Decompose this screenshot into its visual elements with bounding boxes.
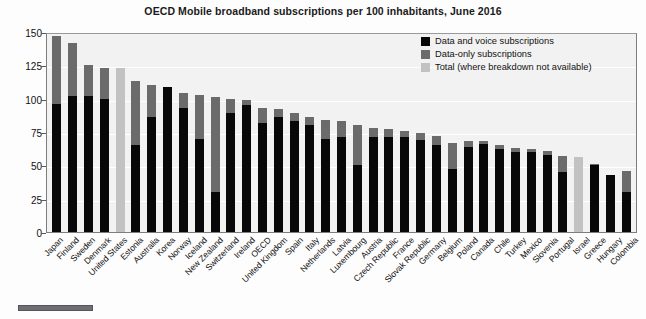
bar-column [381, 34, 397, 232]
y-axis-tick-label: 100 [6, 94, 42, 105]
bar-stack [574, 157, 583, 232]
bar-segment-total-only [574, 157, 583, 232]
bar-column [239, 34, 255, 232]
bar-segment-data-and-voice [179, 108, 188, 232]
bar-segment-data-and-voice [558, 172, 567, 232]
bar-stack [116, 68, 125, 232]
y-axis-tick-mark [41, 33, 46, 34]
bar-stack [353, 125, 362, 232]
bar-segment-data-and-voice [590, 165, 599, 232]
bar-segment-data-and-voice [400, 137, 409, 232]
bar-segment-data-only [353, 125, 362, 165]
bar-segment-data-and-voice [622, 192, 631, 232]
bar-stack [68, 43, 77, 232]
bar-segment-data-and-voice [131, 145, 140, 232]
bar-column [191, 34, 207, 232]
bar-column [176, 34, 192, 232]
bar-segment-data-only [337, 121, 346, 137]
bar-segment-data-only [195, 95, 204, 139]
bar-stack [195, 95, 204, 232]
bar-segment-data-and-voice [305, 125, 314, 232]
bar-segment-data-and-voice [448, 169, 457, 232]
bar-stack [258, 108, 267, 232]
bar-stack [242, 100, 251, 232]
bar-segment-data-and-voice [211, 192, 220, 232]
bar-stack [369, 128, 378, 232]
bar-segment-data-only [305, 117, 314, 125]
bar-column [223, 34, 239, 232]
legend-label: Total (where breakdown not available) [435, 62, 592, 72]
y-axis-tick-mark [41, 233, 46, 234]
bar-segment-data-and-voice [84, 96, 93, 232]
bar-stack [147, 85, 156, 232]
legend-swatch-icon [421, 37, 430, 46]
legend-swatch-icon [421, 63, 430, 72]
bar-stack [479, 141, 488, 232]
bar-segment-data-only [226, 99, 235, 114]
bar-segment-data-and-voice [337, 137, 346, 232]
bar-column [397, 34, 413, 232]
bar-segment-data-only [68, 43, 77, 96]
y-axis-tick-label: 25 [6, 194, 42, 205]
bar-segment-data-only [558, 156, 567, 172]
bar-segment-data-and-voice [100, 99, 109, 232]
bar-stack [211, 97, 220, 232]
bar-column [96, 34, 112, 232]
bar-segment-data-and-voice [242, 105, 251, 232]
bar-segment-data-and-voice [274, 117, 283, 232]
x-axis-labels: JapanFinlandSwedenDenmarkUnited StatesEs… [46, 235, 637, 315]
bar-segment-data-and-voice [606, 175, 615, 232]
bar-segment-data-only [400, 131, 409, 138]
bar-segment-total-only [116, 68, 125, 232]
bar-stack [305, 117, 314, 232]
bar-segment-data-and-voice [163, 87, 172, 232]
bar-stack [179, 93, 188, 232]
bar-stack [384, 129, 393, 232]
bar-segment-data-only [290, 113, 299, 121]
bar-segment-data-only [432, 136, 441, 145]
bar-segment-data-and-voice [416, 140, 425, 232]
bar-column [65, 34, 81, 232]
bar-stack [527, 149, 536, 232]
bar-column [144, 34, 160, 232]
chart-figure: OECD Mobile broadband subscriptions per … [0, 0, 646, 319]
legend-label: Data-only subscriptions [435, 49, 532, 59]
bar-stack [321, 120, 330, 232]
bar-segment-data-and-voice [432, 145, 441, 232]
bar-stack [400, 131, 409, 232]
bar-segment-data-and-voice [68, 96, 77, 232]
bar-segment-data-only [384, 129, 393, 137]
bar-segment-data-and-voice [353, 165, 362, 232]
y-axis-tick-mark [41, 166, 46, 167]
bar-segment-data-and-voice [290, 121, 299, 232]
bar-column [602, 34, 618, 232]
bar-column [318, 34, 334, 232]
bar-segment-data-and-voice [384, 137, 393, 232]
bar-stack [448, 143, 457, 232]
bar-segment-data-only [147, 85, 156, 117]
bar-stack [290, 113, 299, 232]
bar-column [365, 34, 381, 232]
bar-stack [226, 99, 235, 232]
bar-segment-data-and-voice [321, 139, 330, 232]
legend-item: Data and voice subscriptions [421, 36, 592, 46]
bar-segment-data-and-voice [226, 113, 235, 232]
y-axis-tick-mark [41, 100, 46, 101]
bar-column [334, 34, 350, 232]
bar-segment-data-only [622, 171, 631, 192]
bar-stack [84, 65, 93, 232]
bar-segment-data-only [131, 81, 140, 145]
bar-segment-data-only [448, 143, 457, 170]
bar-segment-data-only [100, 68, 109, 99]
bar-stack [163, 87, 172, 232]
chart-title: OECD Mobile broadband subscriptions per … [0, 5, 646, 17]
bar-column [81, 34, 97, 232]
chart-legend: Data and voice subscriptionsData-only su… [421, 36, 592, 72]
bar-stack [543, 151, 552, 232]
bar-stack [511, 148, 520, 232]
legend-label: Data and voice subscriptions [435, 36, 554, 46]
bar-segment-data-and-voice [543, 155, 552, 232]
bar-segment-data-and-voice [464, 147, 473, 232]
bar-column [270, 34, 286, 232]
bar-column [128, 34, 144, 232]
